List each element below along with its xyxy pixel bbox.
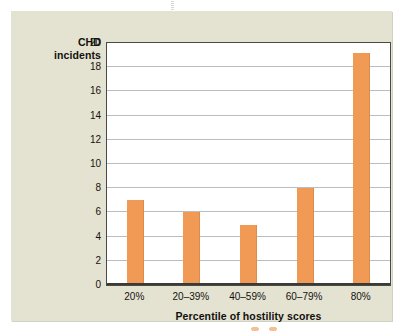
bar bbox=[240, 225, 257, 286]
y-axis-tick-labels: 02468101214161820 bbox=[71, 42, 101, 286]
y-axis-tick-label: 12 bbox=[77, 135, 101, 145]
x-axis-tick-label: 20% bbox=[124, 291, 144, 302]
y-axis-tick-label: 10 bbox=[77, 159, 101, 169]
gridline bbox=[107, 90, 390, 91]
x-axis-tick-labels: 20%20–39%40–59%60–79%80% bbox=[106, 291, 391, 307]
x-axis-title: Percentile of hostility scores bbox=[106, 310, 391, 322]
y-axis-tick-label: 18 bbox=[77, 62, 101, 72]
x-axis-tick-label: 60–79% bbox=[286, 291, 323, 302]
x-axis-tick-label: 40–59% bbox=[229, 291, 266, 302]
y-axis-tick-label: 20 bbox=[77, 38, 101, 48]
y-axis-tick-label: 16 bbox=[77, 86, 101, 96]
page-bleed-artifact bbox=[247, 325, 307, 331]
plot-area bbox=[106, 42, 391, 286]
bar bbox=[353, 53, 370, 285]
y-axis-tick-label: 4 bbox=[77, 232, 101, 242]
bar bbox=[297, 188, 314, 285]
gridline bbox=[107, 139, 390, 140]
y-axis-tick-label: 8 bbox=[77, 183, 101, 193]
bar bbox=[127, 200, 144, 285]
gridline bbox=[107, 211, 390, 212]
gridline bbox=[107, 115, 390, 116]
y-axis-tick-label: 6 bbox=[77, 207, 101, 217]
bar bbox=[183, 212, 200, 285]
chart-panel: CHD incidents 02468101214161820 20%20–39… bbox=[11, 11, 392, 321]
x-axis-line bbox=[107, 283, 390, 285]
y-axis-tick-label: 14 bbox=[77, 111, 101, 121]
gridline bbox=[107, 163, 390, 164]
gridline bbox=[107, 66, 390, 67]
x-axis-tick-label: 20–39% bbox=[173, 291, 210, 302]
y-axis-tick-label: 2 bbox=[77, 256, 101, 266]
chart-figure: CHD incidents 02468101214161820 20%20–39… bbox=[0, 0, 406, 331]
x-axis-tick-label: 80% bbox=[351, 291, 371, 302]
gridline bbox=[107, 187, 390, 188]
scan-artifact-speck bbox=[171, 1, 174, 10]
y-axis-tick-label: 0 bbox=[77, 280, 101, 290]
